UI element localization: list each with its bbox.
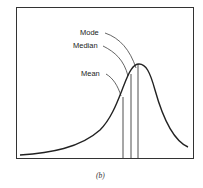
mode-pointer — [105, 33, 136, 68]
median-pointer — [103, 46, 128, 76]
mean-label: Mean — [81, 69, 100, 78]
distribution-curve — [20, 64, 188, 155]
skewed-distribution-figure: Mode Median Mean (b) — [0, 0, 203, 188]
mode-label: Mode — [80, 28, 99, 37]
figure-caption: (b) — [96, 171, 105, 180]
median-label: Median — [73, 41, 98, 50]
mean-pointer — [106, 74, 121, 96]
plot-frame — [17, 8, 194, 159]
